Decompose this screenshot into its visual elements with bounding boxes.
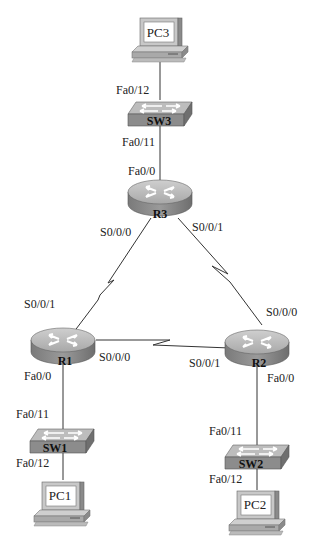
r1-label: R1 (55, 355, 75, 367)
sw3-fa0-11-label: Fa0/11 (122, 136, 155, 148)
r2-s0-0-0-label: S0/0/0 (266, 306, 297, 318)
r1-fa0-0-label: Fa0/0 (24, 370, 51, 382)
sw2-label: SW2 (234, 458, 268, 470)
r1-s0-0-0-label: S0/0/0 (99, 351, 130, 363)
r3-fa0-0-label: Fa0/0 (128, 165, 155, 177)
r3-label: R3 (150, 208, 170, 220)
pc3-label: PC3 (140, 26, 176, 39)
sw2-fa0-12-label: Fa0/12 (209, 473, 242, 485)
sw2-fa0-11-label: Fa0/11 (209, 425, 242, 437)
r2-fa0-0-label: Fa0/0 (267, 372, 294, 384)
serial-link-r1-r2 (96, 340, 230, 348)
serial-link-r3-r2 (178, 218, 262, 325)
r2-s0-0-1-label: S0/0/1 (189, 357, 220, 369)
pc1-label: PC1 (42, 489, 78, 502)
r3-s0-0-1-label: S0/0/1 (192, 221, 223, 233)
r2-label: R2 (249, 357, 269, 369)
r1-s0-0-1-label: S0/0/1 (24, 298, 55, 310)
sw3-label: SW3 (142, 115, 176, 127)
r3-s0-0-0-label: S0/0/0 (100, 226, 131, 238)
sw1-fa0-12-label: Fa0/12 (16, 457, 49, 469)
sw3-fa0-12-label: Fa0/12 (116, 84, 149, 96)
network-topology-diagram: PC3 SW3 R3 R1 R2 SW1 SW2 PC1 PC2 Fa0/12 … (0, 0, 316, 545)
sw1-fa0-11-label: Fa0/11 (16, 408, 49, 420)
sw1-label: SW1 (38, 442, 72, 454)
pc2-label: PC2 (237, 498, 273, 511)
